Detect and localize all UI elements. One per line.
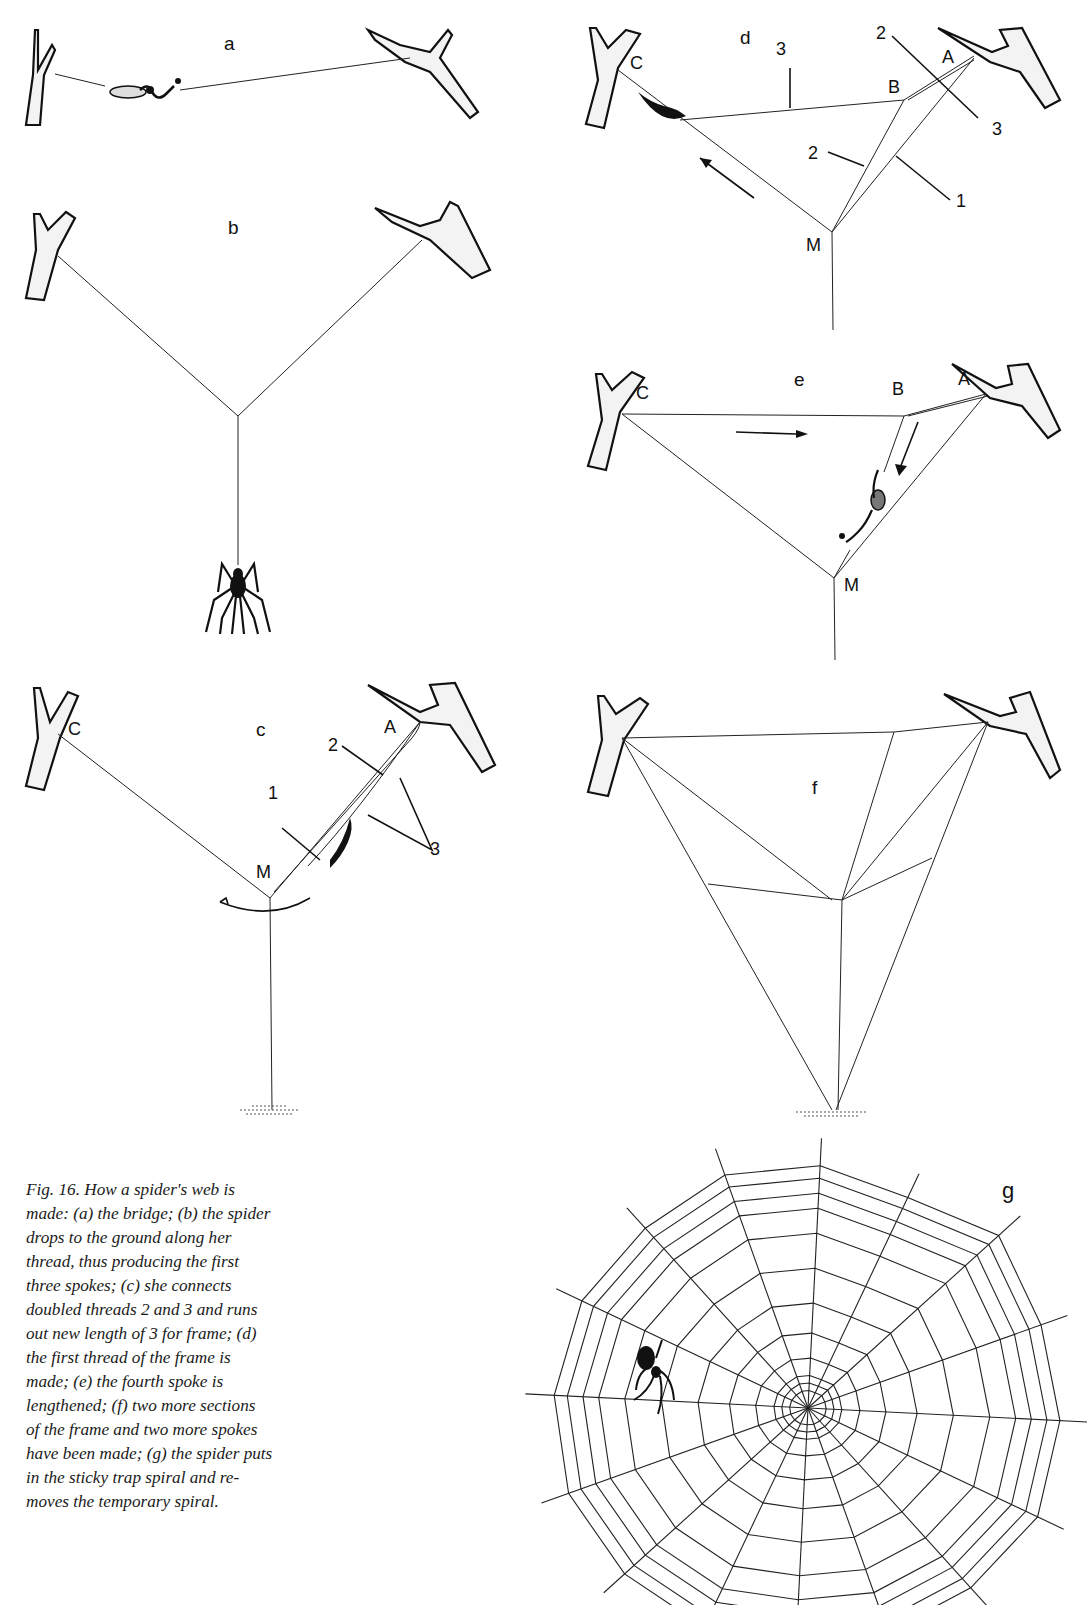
spider-icon [839, 470, 885, 542]
caption-line: lengthened; (f) two more sections [26, 1394, 371, 1418]
caption-line: three spokes; (c) she connects [26, 1274, 371, 1298]
panel-d-first-frame: C d 3 2 A B 3 2 1 M [560, 0, 1060, 330]
caption-line: doubled threads 2 and 3 and runs [26, 1298, 371, 1322]
thread-2-label: 2 [876, 24, 886, 42]
frame-spokes-diagram [560, 660, 1060, 1120]
thread-3-label: 3 [776, 40, 786, 58]
point-m: M [844, 576, 859, 594]
caption-line: made: (a) the bridge; (b) the spider [26, 1202, 371, 1226]
ground-icon [796, 1112, 866, 1116]
drop-diagram [0, 190, 520, 650]
caption-line: made; (e) the fourth spoke is [26, 1370, 371, 1394]
caption-line: out new length of 3 for frame; (d) [26, 1322, 371, 1346]
tree-left-icon [586, 28, 640, 128]
panel-f-frame-spokes: f [560, 660, 1060, 1120]
tree-left-icon [588, 696, 648, 796]
thread-1-label: 1 [268, 784, 278, 802]
orb-web-icon [525, 1138, 1087, 1605]
point-c: C [630, 54, 643, 72]
thread-3-label: 3 [992, 120, 1002, 138]
point-m: M [806, 236, 821, 254]
panel-label-f: f [812, 778, 817, 797]
panel-a-bridge: a [0, 0, 520, 160]
thread-1-label: 1 [956, 192, 966, 210]
tree-right-icon [375, 202, 490, 278]
point-c: C [636, 384, 649, 402]
caption-line: of the frame and two more spokes [26, 1418, 371, 1442]
point-b: B [888, 78, 900, 96]
spider-icon [638, 92, 686, 119]
point-a: A [384, 718, 396, 736]
ground-icon [240, 1106, 300, 1114]
tree-left-icon [26, 212, 75, 300]
point-m: M [256, 863, 271, 881]
caption-line: in the sticky trap spiral and re- [26, 1466, 371, 1490]
point-c: C [68, 720, 81, 738]
caption-line: moves the temporary spiral. [26, 1490, 371, 1514]
caption-line: Fig. 16. How a spider's web is [26, 1178, 371, 1202]
caption-line: the first thread of the frame is [26, 1346, 371, 1370]
spider-icon [206, 564, 270, 634]
caption-line: thread, thus producing the first [26, 1250, 371, 1274]
point-a: A [942, 48, 954, 66]
tree-left-icon [26, 688, 78, 790]
panel-b-drop: b [0, 190, 520, 650]
thread-3-label: 3 [430, 840, 440, 858]
figure-caption: Fig. 16. How a spider's web is made: (a)… [26, 1178, 371, 1514]
tree-left-icon [26, 30, 55, 125]
point-b: B [892, 380, 904, 398]
first-frame-diagram [560, 0, 1060, 330]
panel-label-b: b [228, 218, 239, 237]
panel-g-finished-web: g [530, 1120, 1087, 1605]
bridge-diagram [0, 0, 520, 160]
fourth-spoke-diagram [560, 350, 1060, 670]
tree-right-icon [938, 28, 1060, 108]
panel-label-e: e [794, 370, 805, 389]
thread-2-label: 2 [328, 736, 338, 754]
panel-e-fourth-spoke: C e B A M [560, 350, 1060, 670]
panel-label-g: g [1002, 1180, 1014, 1202]
point-a: A [958, 370, 970, 388]
tree-right-icon [944, 692, 1060, 778]
panel-c-doubled-threads: C c A 2 1 3 M [0, 660, 520, 1130]
panel-label-c: c [256, 720, 266, 739]
spider-icon [110, 78, 181, 98]
tree-right-icon [368, 30, 478, 118]
spider-icon [634, 1340, 674, 1414]
thread-2-label: 2 [808, 144, 818, 162]
caption-line: have been made; (g) the spider puts [26, 1442, 371, 1466]
panel-label-a: a [224, 34, 235, 53]
panel-label-d: d [740, 28, 751, 47]
caption-line: drops to the ground along her [26, 1226, 371, 1250]
